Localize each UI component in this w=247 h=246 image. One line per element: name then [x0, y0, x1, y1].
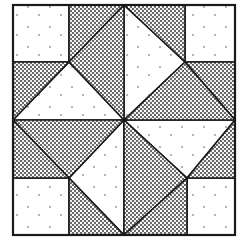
quilt-piece-square-top-left	[13, 5, 69, 62]
quilt-pieces	[13, 5, 235, 235]
quilt-piece-square-bottom-right	[187, 178, 235, 235]
quilt-block-diagram: Quilt block pattern	[0, 0, 247, 246]
quilt-block-svg	[0, 0, 247, 246]
quilt-piece-square-top-right	[185, 5, 235, 62]
quilt-piece-square-bottom-left	[13, 178, 69, 235]
